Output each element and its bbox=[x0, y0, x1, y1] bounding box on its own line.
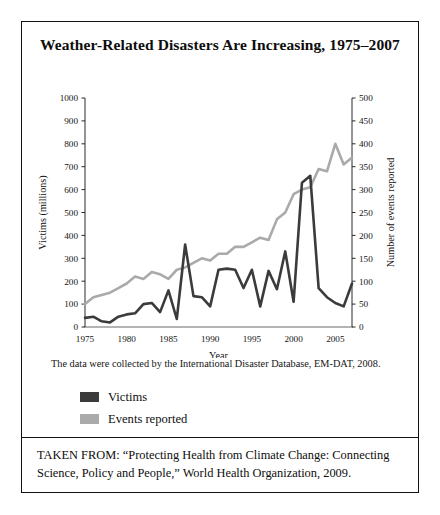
legend-item-events-reported: Events reported bbox=[80, 408, 380, 430]
x-axis-tick-label: 1975 bbox=[76, 334, 95, 344]
y-axis-left-tick-label: 800 bbox=[64, 139, 78, 149]
x-axis-tick-label: 1995 bbox=[243, 334, 262, 344]
y-axis-left-tick-label: 700 bbox=[64, 162, 78, 172]
source-attribution: TAKEN FROM: “Protecting Health from Clim… bbox=[37, 447, 405, 482]
chart-caption: The data were collected by the Internati… bbox=[51, 357, 401, 370]
series-line-victims bbox=[85, 176, 352, 323]
legend-swatch-victims bbox=[80, 392, 99, 402]
legend-item-victims: Victims bbox=[80, 386, 380, 408]
y-axis-left-tick-label: 1000 bbox=[60, 93, 79, 103]
y-axis-right-tick-label: 300 bbox=[359, 185, 373, 195]
figure-page: Weather-Related Disasters Are Increasing… bbox=[0, 0, 440, 515]
y-axis-right-tick-label: 400 bbox=[359, 139, 373, 149]
page-title: Weather-Related Disasters Are Increasing… bbox=[40, 36, 400, 54]
figure-border-box: Weather-Related Disasters Are Increasing… bbox=[21, 21, 419, 493]
y-axis-right-tick-label: 50 bbox=[359, 299, 369, 309]
y-axis-left-tick-label: 300 bbox=[64, 254, 78, 264]
y-axis-right-tick-label: 450 bbox=[359, 116, 373, 126]
y-axis-left-tick-label: 0 bbox=[73, 322, 78, 332]
line-chart: 0100200300400500600700800900100005010015… bbox=[22, 68, 420, 358]
y-axis-right-tick-label: 0 bbox=[359, 322, 364, 332]
y-axis-right-tick-label: 500 bbox=[359, 93, 373, 103]
x-axis-tick-label: 1985 bbox=[159, 334, 178, 344]
y-axis-right-title: Number of events reported bbox=[385, 158, 396, 267]
y-axis-left-tick-label: 200 bbox=[64, 277, 78, 287]
y-axis-left-tick-label: 400 bbox=[64, 231, 78, 241]
x-axis-tick-label: 1980 bbox=[118, 334, 137, 344]
y-axis-right-tick-label: 150 bbox=[359, 254, 373, 264]
x-axis-tick-label: 2000 bbox=[284, 334, 303, 344]
legend-swatch-events-reported bbox=[80, 414, 99, 424]
series-line-events-reported bbox=[85, 144, 352, 304]
x-axis-tick-label: 1990 bbox=[201, 334, 220, 344]
y-axis-right-tick-label: 200 bbox=[359, 231, 373, 241]
x-axis-tick-label: 2005 bbox=[326, 334, 345, 344]
y-axis-left-title: Victims (millions) bbox=[37, 175, 49, 249]
y-axis-left-tick-label: 600 bbox=[64, 185, 78, 195]
y-axis-left-tick-label: 500 bbox=[64, 208, 78, 218]
legend-label-victims: Victims bbox=[108, 391, 147, 404]
y-axis-left-tick-label: 900 bbox=[64, 116, 78, 126]
legend-label-events-reported: Events reported bbox=[108, 413, 187, 426]
y-axis-right-tick-label: 250 bbox=[359, 208, 373, 218]
y-axis-left-tick-label: 100 bbox=[64, 299, 78, 309]
y-axis-right-tick-label: 350 bbox=[359, 162, 373, 172]
chart-plot-area: 0100200300400500600700800900100005010015… bbox=[22, 68, 420, 358]
section-divider bbox=[22, 437, 418, 438]
y-axis-right-tick-label: 100 bbox=[359, 277, 373, 287]
chart-legend: Victims Events reported bbox=[80, 386, 380, 430]
